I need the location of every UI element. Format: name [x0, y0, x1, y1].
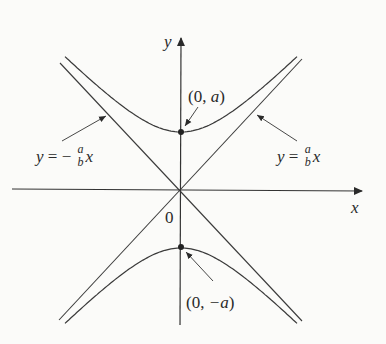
vertex-bottom-label: (0, −a)	[186, 294, 234, 311]
asymptote-positive-fraction: ab	[305, 143, 311, 168]
vertex-top-point	[178, 129, 184, 135]
vertex-top-label-var: a	[211, 87, 220, 106]
pointer-asymptote-negative	[62, 116, 106, 141]
fraction-numerator: a	[77, 143, 83, 156]
vertex-bottom-label-prefix: (0,	[186, 293, 209, 312]
vertex-bottom-label-suffix: )	[229, 293, 235, 312]
asymptote-positive-label: y = abx	[277, 145, 320, 170]
hyperbola-lower-branch	[65, 248, 297, 323]
asymptote-negative-lhs: y	[36, 147, 44, 166]
fraction-denominator: b	[305, 156, 311, 169]
vertex-bottom-point	[178, 244, 184, 250]
asymptote-negative-rhs: x	[85, 147, 93, 166]
asymptote-positive-lhs: y	[277, 147, 285, 166]
pointer-vertex-top	[185, 107, 198, 126]
vertex-top-label-prefix: (0,	[188, 87, 211, 106]
x-axis-label: x	[351, 199, 359, 216]
pointer-asymptote-positive	[257, 115, 297, 141]
asymptote-negative-eq: = −	[44, 147, 76, 166]
y-axis	[180, 38, 181, 325]
fraction-denominator: b	[77, 156, 83, 169]
vertex-bottom-label-var: −a	[209, 293, 229, 312]
asymptote-positive-rhs: x	[313, 147, 321, 166]
y-axis-label: y	[164, 33, 172, 50]
pointer-vertex-bottom	[186, 252, 213, 281]
origin-label: 0	[165, 209, 174, 226]
asymptote-negative-fraction: ab	[77, 143, 83, 168]
fraction-numerator: a	[305, 143, 311, 156]
vertex-top-label: (0, a)	[188, 88, 225, 105]
hyperbola-diagram: y x 0 (0, a) (0, −a) y = − abx y = abx	[0, 0, 386, 344]
x-axis	[12, 189, 362, 191]
asymptote-negative-label: y = − abx	[36, 145, 93, 170]
vertex-top-label-suffix: )	[219, 87, 225, 106]
asymptote-positive-eq: =	[285, 147, 303, 166]
